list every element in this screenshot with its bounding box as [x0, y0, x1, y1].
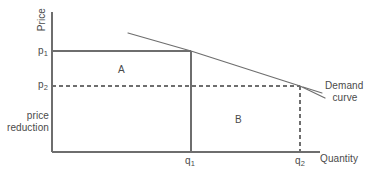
price-reduction-line-1: price [27, 110, 49, 121]
region-label-a: A [118, 64, 125, 76]
y-tick-p2-subscript: 2 [44, 83, 48, 92]
x-tick-q2-subscript: 2 [301, 159, 305, 168]
y-tick-label-p2: p2 [38, 79, 48, 91]
x-tick-label-q1: q1 [185, 155, 195, 167]
y-axis-title: Price [36, 8, 48, 31]
x-tick-q2-base: q [295, 155, 301, 166]
demand-curve-annotation: Demandcurve [325, 80, 363, 103]
diagram-canvas [0, 0, 372, 177]
demand-curve-line-1: Demand [325, 80, 363, 91]
price-reduction-annotation: pricereduction [0, 110, 49, 133]
demand-curve-diagram: Price Quantity p1 p2 q1 q2 A B priceredu… [0, 0, 372, 177]
demand-curve-line-2: curve [325, 92, 363, 104]
price-reduction-line-2: reduction [7, 122, 49, 133]
x-tick-label-q2: q2 [295, 155, 305, 167]
region-label-b: B [235, 114, 242, 126]
y-tick-p1-subscript: 1 [44, 49, 48, 58]
demand-curve-line [128, 33, 325, 98]
y-tick-p2-base: p [38, 79, 44, 90]
x-tick-q1-base: q [185, 155, 191, 166]
x-tick-q1-subscript: 1 [191, 159, 195, 168]
y-tick-label-p1: p1 [38, 45, 48, 57]
x-axis-title: Quantity [320, 153, 358, 165]
y-tick-p1-base: p [38, 45, 44, 56]
